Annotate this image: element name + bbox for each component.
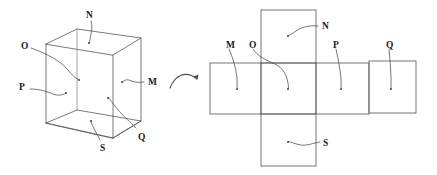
cube-wireframe (46, 29, 141, 138)
net-square-P (316, 63, 369, 114)
cube-label-O: O (21, 42, 29, 52)
leader-net-Q (389, 49, 391, 88)
leader-net-M (229, 49, 237, 88)
leader-cube-N (90, 21, 92, 42)
leader-net-P (336, 49, 341, 88)
leader-cube-S (91, 121, 100, 141)
leader-net-O (253, 49, 289, 88)
net-squares (210, 10, 416, 166)
leader-net-S (289, 142, 321, 146)
net-label-P: P (333, 41, 339, 51)
net-label-M: M (226, 41, 235, 51)
net-label-S: S (323, 139, 328, 149)
net-label-Q: Q (386, 41, 394, 51)
net-square-M (210, 63, 261, 114)
net-label-N: N (322, 22, 329, 32)
cube-label-N: N (86, 11, 93, 21)
leader-cube-P (30, 89, 66, 95)
curved-arrow-right-icon (170, 74, 199, 88)
cube-label-Q: Q (138, 133, 146, 143)
net-label-O: O (249, 41, 257, 51)
leader-cube-O (31, 48, 79, 80)
leader-net-N (289, 26, 319, 36)
cube-label-S: S (100, 144, 105, 154)
net-face-dots (236, 35, 392, 143)
net-square-S (261, 114, 316, 166)
cube-label-M: M (148, 78, 157, 88)
cube-label-P: P (19, 83, 25, 93)
figure-root: N O P M Q S M O N S P Q (0, 0, 437, 175)
figure-canvas (0, 0, 437, 175)
net-square-Q (369, 61, 416, 113)
